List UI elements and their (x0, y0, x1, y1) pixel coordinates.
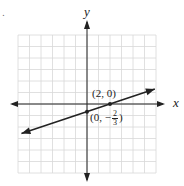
y-axis (84, 20, 90, 182)
point-label-prefix: (0, − (90, 111, 111, 123)
x-axis-right-arrow-icon (157, 101, 165, 107)
y-axis-down-arrow-icon (84, 173, 90, 182)
point-label-suffix: ) (119, 111, 123, 123)
line-end-arrow-icon (145, 89, 155, 96)
x-axis-label: x (173, 95, 179, 111)
y-axis-up-arrow-icon (84, 20, 90, 29)
point-marker (85, 110, 89, 114)
point-label-0-neg-two-thirds: (0, −23) (90, 110, 123, 127)
point-label-2-0: (2, 0) (92, 87, 116, 99)
x-axis-left-arrow-icon (10, 101, 18, 107)
fraction: 23 (112, 110, 118, 127)
fraction-denominator: 3 (112, 119, 118, 127)
y-axis-label: y (84, 4, 90, 20)
point-marker (108, 102, 112, 106)
